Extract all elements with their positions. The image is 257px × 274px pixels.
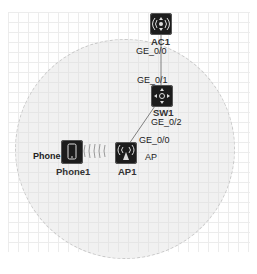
device-role-phone1: Phone [33,151,61,161]
device-ap1[interactable] [115,142,137,164]
port-label-sw1-ge02: GE_0/2 [151,117,182,127]
wireless-signal-icon [84,144,105,158]
switch-icon [151,85,173,107]
device-name-ap1: AP1 [118,167,136,177]
phone-icon [61,140,83,164]
links-layer [0,0,257,274]
port-label-ac1-ge00: GE_0/0 [136,46,167,56]
device-role-ap1: AP [145,152,157,162]
access-controller-icon [150,13,172,35]
device-phone1[interactable] [61,140,83,164]
port-label-ap1-ge00: GE_0/0 [139,135,170,145]
access-point-icon [115,142,137,164]
device-name-phone1: Phone1 [56,167,90,177]
port-label-sw1-ge01: GE_0/1 [137,75,168,85]
device-sw1[interactable] [151,85,173,107]
device-ac1[interactable] [150,13,172,35]
